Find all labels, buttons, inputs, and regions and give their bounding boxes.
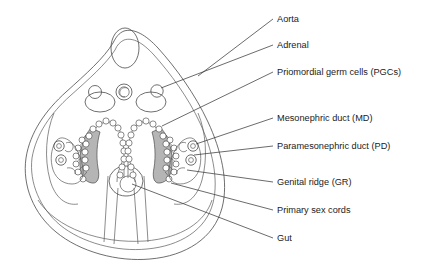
embryo-cross-section-diagram: Aorta Adrenal Priomordial germ cells (PG… xyxy=(0,0,436,268)
label-psc: Primary sex cords xyxy=(277,205,351,215)
label-pgcs: Priomordial germ cells (PGCs) xyxy=(277,67,401,77)
label-aorta: Aorta xyxy=(277,14,300,24)
label-md: Mesonephric duct (MD) xyxy=(277,113,372,123)
label-adrenal: Adrenal xyxy=(277,40,309,50)
diagram-background xyxy=(0,0,436,268)
label-gut: Gut xyxy=(277,233,292,243)
label-gr: Genital ridge (GR) xyxy=(277,177,352,187)
label-pd: Paramesonephric duct (PD) xyxy=(277,141,390,151)
